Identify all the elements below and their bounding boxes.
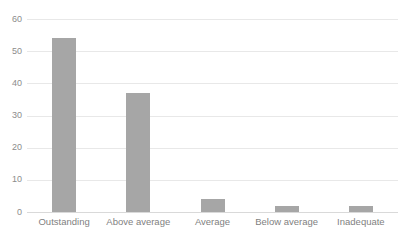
gridline — [27, 148, 398, 149]
gridline — [27, 51, 398, 52]
bar — [349, 206, 373, 212]
gridline — [27, 116, 398, 117]
y-tick-label: 20 — [12, 143, 22, 152]
bar-chart: 0102030405060 OutstandingAbove averageAv… — [0, 0, 406, 239]
y-tick-label: 10 — [12, 175, 22, 184]
x-axis-line — [27, 212, 398, 213]
x-tick-label: Outstanding — [27, 216, 101, 228]
y-tick-label: 40 — [12, 79, 22, 88]
bar — [52, 38, 76, 212]
y-tick-label: 60 — [12, 15, 22, 24]
plot-area — [27, 19, 398, 212]
bar — [201, 199, 225, 212]
y-tick-label: 50 — [12, 47, 22, 56]
bar — [275, 206, 299, 212]
y-tick-label: 0 — [17, 208, 22, 217]
x-axis: OutstandingAbove averageAverageBelow ave… — [27, 216, 398, 236]
x-tick-label: Below average — [250, 216, 324, 228]
chart-title — [0, 0, 406, 4]
y-axis: 0102030405060 — [0, 0, 27, 212]
bar — [126, 93, 150, 212]
x-tick-label: Inadequate — [324, 216, 398, 228]
gridline — [27, 180, 398, 181]
y-tick-label: 30 — [12, 111, 22, 120]
x-tick-label: Average — [175, 216, 249, 228]
gridline — [27, 83, 398, 84]
x-tick-label: Above average — [101, 216, 175, 228]
gridline — [27, 19, 398, 20]
